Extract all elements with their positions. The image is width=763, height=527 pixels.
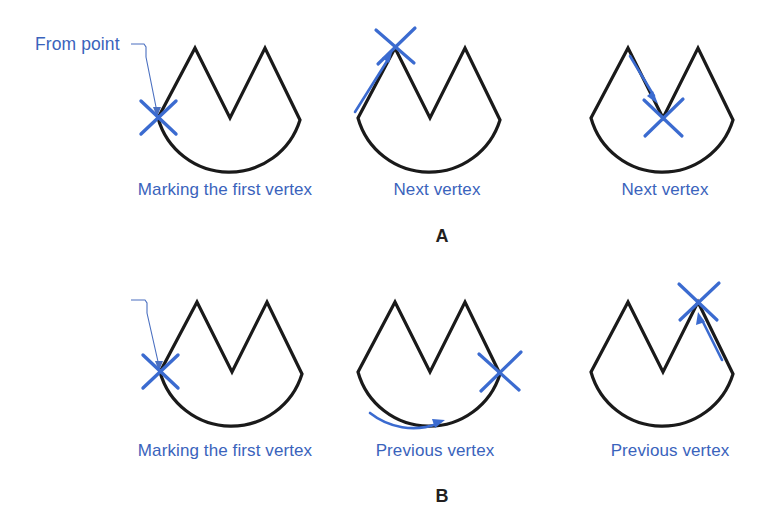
caption-b2: Previous vertex bbox=[345, 441, 525, 461]
caption-a2: Next vertex bbox=[357, 180, 517, 200]
caption-a1: Marking the first vertex bbox=[105, 180, 345, 200]
vertex-x-mark bbox=[141, 101, 176, 134]
crown-arc-polygon-outline bbox=[591, 302, 733, 426]
panel-b2-graphic bbox=[245, 258, 505, 443]
panel-a3 bbox=[478, 0, 738, 180]
row-label-b: B bbox=[412, 486, 472, 507]
vertex-x-mark bbox=[644, 99, 683, 136]
panel-b2 bbox=[245, 258, 505, 443]
vertex-x-mark bbox=[376, 28, 415, 64]
caption-b3: Previous vertex bbox=[580, 441, 760, 461]
panel-a2 bbox=[245, 0, 495, 180]
caption-a3: Next vertex bbox=[585, 180, 745, 200]
from-point-label-a1: From point bbox=[35, 34, 120, 55]
panel-b3-graphic bbox=[478, 258, 748, 443]
crown-arc-polygon-outline bbox=[591, 48, 733, 172]
row-label-a: A bbox=[412, 226, 472, 247]
direction-arrow-previous bbox=[370, 413, 445, 428]
panel-a3-graphic bbox=[478, 0, 738, 180]
vertex-x-mark bbox=[143, 355, 178, 388]
panel-b3 bbox=[478, 258, 748, 443]
figure-canvas: From point Marking the first vertex Next… bbox=[0, 0, 763, 527]
caption-b1: Marking the first vertex bbox=[105, 441, 345, 461]
direction-arrow-next bbox=[630, 56, 658, 104]
direction-arrow-next bbox=[355, 50, 393, 112]
panel-a2-graphic bbox=[245, 0, 495, 180]
